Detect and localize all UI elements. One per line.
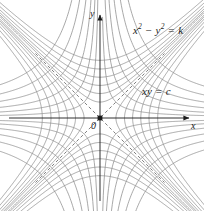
orthogonal-hyperbola-families-figure: x2 − y2 = k xy = c y x 0 [0, 0, 204, 211]
origin-label: 0 [91, 120, 96, 131]
hyperbola-curve [0, 0, 204, 77]
equation-label-c: xy = c [142, 85, 171, 97]
origin-marker [98, 116, 103, 121]
hyperbola-curve [0, 0, 82, 97]
equation-label-k: x2 − y2 = k [133, 22, 183, 36]
hyperbola-curve [133, 6, 204, 211]
equation-k-text: x2 − y2 = k [133, 24, 183, 36]
y-axis-label: y [90, 8, 94, 19]
x-axis-label: x [191, 120, 195, 131]
